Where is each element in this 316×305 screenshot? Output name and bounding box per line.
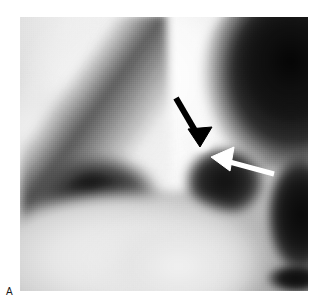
panel-label: A xyxy=(6,287,13,297)
figure-panel: A xyxy=(0,0,316,305)
white-arrow-icon xyxy=(20,17,308,291)
scan-image xyxy=(20,17,308,291)
